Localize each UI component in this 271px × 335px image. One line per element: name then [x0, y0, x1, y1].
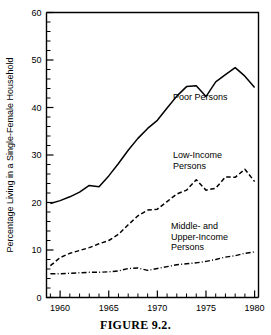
- svg-text:Percentage Living in a Single-: Percentage Living in a Single-Female Hou…: [5, 57, 15, 252]
- svg-text:10: 10: [31, 245, 41, 255]
- svg-text:1970: 1970: [147, 303, 167, 313]
- svg-text:40: 40: [31, 103, 41, 113]
- axis-ticks: [47, 13, 255, 298]
- svg-text:Middle- and: Middle- and: [171, 221, 218, 231]
- svg-text:60: 60: [31, 8, 41, 18]
- svg-text:Poor Persons: Poor Persons: [173, 92, 228, 102]
- svg-text:1980: 1980: [245, 303, 265, 313]
- y-axis-title: Percentage Living in a Single-Female Hou…: [5, 57, 15, 252]
- svg-text:Upper-Income: Upper-Income: [171, 232, 228, 242]
- svg-text:20: 20: [31, 198, 41, 208]
- svg-text:Low-Income: Low-Income: [173, 150, 222, 160]
- svg-text:1960: 1960: [50, 303, 70, 313]
- svg-text:0: 0: [36, 293, 41, 303]
- svg-text:Persons: Persons: [173, 161, 207, 171]
- svg-text:50: 50: [31, 55, 41, 65]
- svg-text:Persons: Persons: [171, 242, 205, 252]
- svg-text:1965: 1965: [99, 303, 119, 313]
- figure-caption: FIGURE 9.2.: [0, 318, 271, 333]
- line-chart: 010203040506019601965197019751980 Poor P…: [0, 0, 271, 335]
- figure-container: 010203040506019601965197019751980 Poor P…: [0, 0, 271, 335]
- svg-text:1975: 1975: [196, 303, 216, 313]
- axes: [47, 13, 259, 298]
- series-annotations: Poor PersonsLow-IncomePersonsMiddle- and…: [171, 92, 228, 252]
- axis-tick-labels: 010203040506019601965197019751980: [31, 8, 264, 313]
- svg-text:30: 30: [31, 150, 41, 160]
